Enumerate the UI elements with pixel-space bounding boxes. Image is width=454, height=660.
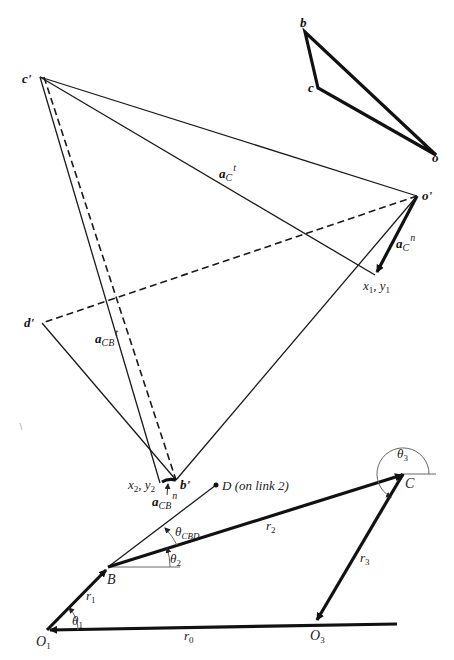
label-c-prime: c' xyxy=(22,71,32,86)
label-c: c xyxy=(308,80,314,95)
label-C: C xyxy=(405,476,415,491)
label-aC-t: aCt xyxy=(219,162,236,183)
line-oprime-bprime xyxy=(176,196,417,480)
label-x2-y2: x2, y2 xyxy=(127,477,155,494)
label-D: D (on link 2) xyxy=(221,478,289,493)
label-aCB-t: aCBt xyxy=(95,327,118,348)
label-d-prime: d' xyxy=(24,315,35,330)
label-theta1: θ1 xyxy=(72,613,83,630)
label-r1: r1 xyxy=(86,588,96,605)
point-D xyxy=(214,483,219,488)
dashed-oprime-dprime xyxy=(42,196,417,323)
link-r0 xyxy=(50,624,397,630)
label-O1: O1 xyxy=(36,634,51,651)
line-B-D xyxy=(108,485,216,567)
label-thetaCBD: θCBD xyxy=(175,524,200,541)
vector-aCB-n xyxy=(162,479,176,482)
kinematic-diagram: b c o c' o' d' b' x1, y1 x2, y2 xyxy=(0,0,454,660)
label-r0: r0 xyxy=(184,628,194,645)
velocity-triangle xyxy=(305,32,436,155)
label-aCB-n: aCBn xyxy=(152,490,177,511)
acceleration-polygon: c' o' d' b' x1, y1 x2, y2 aCt aCn aCBt a… xyxy=(22,71,433,511)
pointer-aCB-n xyxy=(167,484,168,495)
label-O3: O3 xyxy=(310,628,325,645)
label-b: b xyxy=(300,15,307,30)
label-o: o xyxy=(432,150,439,165)
label-r3: r3 xyxy=(360,550,370,567)
label-aC-n: aCn xyxy=(396,232,415,253)
label-o-prime: o' xyxy=(422,188,433,203)
label-b-prime: b' xyxy=(180,477,191,492)
stray-mark xyxy=(20,423,22,430)
label-B: B xyxy=(107,572,116,587)
label-x1-y1: x1, y1 xyxy=(362,278,390,295)
label-theta2: θ2 xyxy=(170,551,181,568)
label-r2: r2 xyxy=(266,518,276,535)
four-bar-mechanism: D (on link 2) B C O1 O3 r0 r1 r2 r3 θ1 θ… xyxy=(36,446,436,651)
dashed-cprime-bprime xyxy=(44,77,176,480)
velocity-polygon: b c o xyxy=(300,15,439,165)
